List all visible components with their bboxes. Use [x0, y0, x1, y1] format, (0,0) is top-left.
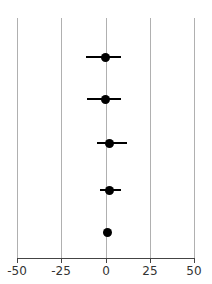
point-estimate-marker [101, 53, 110, 62]
x-tick-label: 0 [102, 264, 110, 278]
x-axis-tick [17, 258, 18, 263]
gridline-50 [194, 18, 195, 258]
gridline-neg50 [17, 18, 18, 258]
x-axis-tick [61, 258, 62, 263]
x-axis-tick [150, 258, 151, 263]
x-axis-tick [194, 258, 195, 263]
gridline-25 [150, 18, 151, 258]
x-tick-label: 50 [186, 264, 201, 278]
x-tick-label: -50 [7, 264, 27, 278]
point-estimate-marker [101, 95, 110, 104]
x-axis-tick [106, 258, 107, 263]
point-estimate-marker [103, 228, 112, 237]
point-estimate-marker [105, 186, 114, 195]
x-tick-label: 25 [142, 264, 157, 278]
plot-area: -50-2502550 [0, 0, 212, 284]
gridline-neg25 [61, 18, 62, 258]
point-estimate-marker [105, 139, 114, 148]
x-tick-label: -25 [51, 264, 71, 278]
forest-plot-figure: -50-2502550 [0, 0, 212, 284]
